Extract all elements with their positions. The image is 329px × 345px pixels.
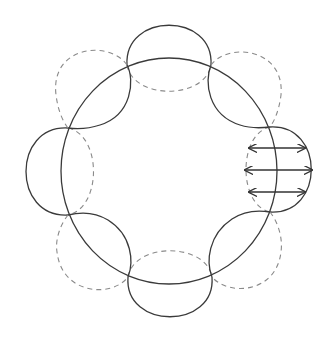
lobe-top-left: [56, 50, 131, 128]
lobe-bottom-left-dashed-arc: [57, 215, 128, 290]
oscillation-diagram: [0, 0, 329, 345]
lobe-left: [26, 128, 94, 215]
main-ellipse: [61, 58, 277, 284]
lobe-left-solid-arc: [26, 128, 68, 215]
lobe-bottom-solid-arc: [128, 277, 212, 317]
lobe-top-right-solid-arc: [208, 65, 270, 128]
lobe-bottom-right-solid-arc: [209, 211, 270, 277]
lobe-bottom-left-solid-arc: [68, 213, 131, 277]
lobe-top-left-solid-arc: [68, 65, 131, 129]
oscillation-arrows: [245, 148, 312, 192]
lobe-bottom-dashed-arc: [128, 251, 212, 277]
lobe-left-dashed-arc: [68, 128, 94, 215]
lobe-top-right-dashed-arc: [211, 52, 281, 127]
lobe-top-solid-arc: [127, 25, 211, 65]
lobe-bottom-right: [209, 211, 281, 288]
lobe-top-dashed-arc: [127, 65, 211, 91]
